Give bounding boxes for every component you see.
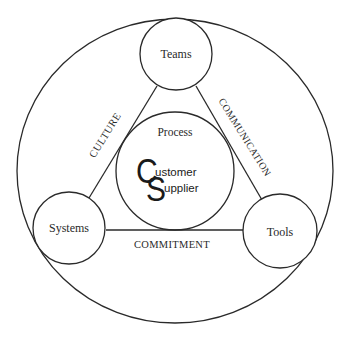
systems-label: Systems [49, 221, 89, 235]
customer-supplier-logo: C S ustomer upplier [136, 152, 199, 208]
process-heading: Process [157, 126, 193, 138]
logo-customer-text: ustomer [155, 166, 197, 178]
customer-supplier-diagram: Teams Systems Tools Process C S ustomer … [0, 0, 347, 337]
culture-label: CULTURE [87, 111, 123, 160]
teams-label: Teams [160, 47, 191, 61]
tools-label: Tools [267, 225, 294, 239]
logo-supplier-text: upplier [164, 182, 199, 194]
commitment-label: COMMITMENT [134, 239, 210, 250]
